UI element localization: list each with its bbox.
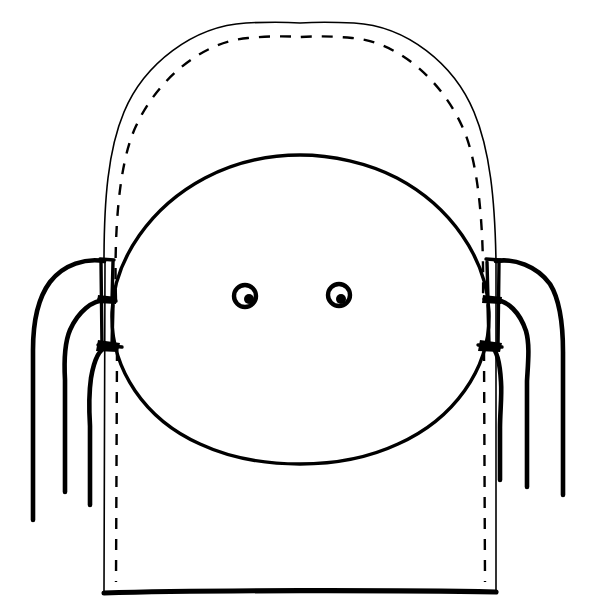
face-oval — [112, 155, 489, 464]
hood-outer-arch — [104, 22, 496, 262]
bag-left-edge — [104, 262, 105, 592]
bag-bottom-edge — [104, 591, 496, 593]
right-eye — [328, 284, 350, 306]
left-side-stitching — [116, 350, 117, 582]
hood-arch-stitching — [116, 36, 484, 300]
left-strand-middle — [65, 300, 106, 492]
left-eye — [234, 285, 256, 307]
right-side-stitching — [484, 350, 485, 582]
illustration-canvas: Line-drawing illustration of a doll-face… — [0, 0, 596, 610]
right-strand-outer — [496, 260, 563, 495]
line-drawing-svg — [0, 0, 596, 610]
left-strand-outer — [33, 260, 104, 520]
